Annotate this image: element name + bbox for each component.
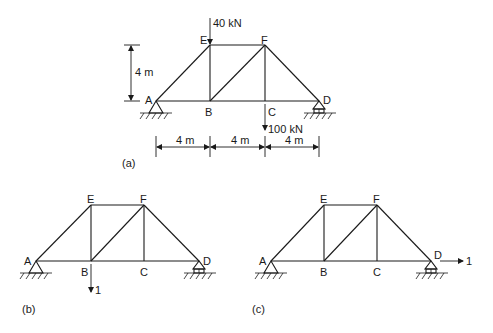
node-label-d: D bbox=[434, 249, 442, 261]
roller-support-icon bbox=[304, 101, 336, 119]
truss-diagram-b: A B C D E F 1 (b) bbox=[20, 193, 216, 315]
node-label-e: E bbox=[87, 193, 94, 205]
height-dimension: 4 m bbox=[124, 45, 153, 101]
node-label-c: C bbox=[373, 266, 381, 278]
node-label-a: A bbox=[259, 255, 267, 267]
caption-b: (b) bbox=[22, 303, 35, 315]
node-label-b: B bbox=[320, 266, 327, 278]
truss-diagram-c: A B C D E F 1 (c) bbox=[252, 193, 472, 315]
unit-load-arrow-right: 1 bbox=[440, 255, 472, 267]
node-label-f: F bbox=[261, 34, 268, 46]
unit-load-label: 1 bbox=[466, 255, 472, 267]
node-label-c: C bbox=[140, 266, 148, 278]
span-label-bc: 4 m bbox=[231, 134, 249, 146]
node-label-a: A bbox=[24, 255, 32, 267]
load-arrow-40kn: 40 kN bbox=[210, 17, 242, 44]
roller-support-icon bbox=[184, 261, 216, 279]
truss-figure: A B C D E F 40 kN 100 kN 4 m bbox=[0, 0, 493, 333]
truss-members-a bbox=[156, 45, 319, 101]
caption-a: (a) bbox=[122, 157, 135, 169]
span-label-ab: 4 m bbox=[176, 134, 194, 146]
height-dimension-label: 4 m bbox=[135, 66, 153, 78]
node-label-e: E bbox=[200, 34, 207, 46]
node-label-f: F bbox=[140, 193, 147, 205]
roller-support-icon bbox=[416, 261, 448, 279]
node-label-a: A bbox=[145, 94, 153, 106]
truss-members-c bbox=[271, 205, 431, 261]
truss-members-b bbox=[36, 205, 199, 261]
node-label-b: B bbox=[81, 266, 88, 278]
node-label-c: C bbox=[268, 106, 276, 118]
unit-load-arrow-down: 1 bbox=[91, 264, 101, 296]
node-label-b: B bbox=[205, 106, 212, 118]
load-label-40kn: 40 kN bbox=[213, 17, 242, 29]
caption-c: (c) bbox=[252, 303, 265, 315]
span-dimensions: 4 m 4 m 4 m bbox=[156, 134, 319, 157]
span-label-cd: 4 m bbox=[285, 134, 303, 146]
node-label-e: E bbox=[320, 193, 327, 205]
truss-diagram-a: A B C D E F 40 kN 100 kN 4 m bbox=[122, 17, 336, 169]
node-label-d: D bbox=[203, 255, 211, 267]
unit-load-label: 1 bbox=[95, 284, 101, 296]
node-label-f: F bbox=[373, 193, 380, 205]
node-label-d: D bbox=[323, 94, 331, 106]
